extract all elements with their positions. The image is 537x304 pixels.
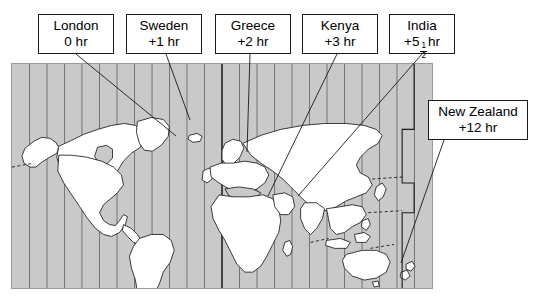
- callout-sweden-place: Sweden: [127, 18, 201, 34]
- callout-sweden[interactable]: Sweden +1 hr: [126, 14, 202, 54]
- callout-india-offset: +512hr: [390, 34, 454, 60]
- callout-india-place: India: [390, 18, 454, 34]
- callout-sweden-offset: +1 hr: [127, 34, 201, 50]
- callout-london[interactable]: London 0 hr: [38, 14, 114, 54]
- fraction-denominator: 2: [420, 52, 427, 60]
- callout-india-half-fraction: 12: [420, 42, 427, 59]
- callout-india-offset-suffix: hr: [428, 34, 440, 49]
- callout-india-offset-prefix: +5: [404, 34, 419, 49]
- callout-london-offset: 0 hr: [39, 34, 113, 50]
- callout-greece-place: Greece: [216, 18, 290, 34]
- callout-india[interactable]: India +512hr: [389, 14, 455, 54]
- callout-new-zealand[interactable]: New Zealand +12 hr: [428, 100, 528, 140]
- landmass-iceland: [188, 133, 202, 142]
- callout-greece[interactable]: Greece +2 hr: [215, 14, 291, 54]
- callout-greece-offset: +2 hr: [216, 34, 290, 50]
- world-map: [11, 63, 433, 289]
- callout-london-place: London: [39, 18, 113, 34]
- world-map-graphic: [12, 64, 432, 288]
- callout-new-zealand-place: New Zealand: [429, 104, 527, 120]
- callout-kenya-place: Kenya: [303, 18, 377, 34]
- callout-kenya[interactable]: Kenya +3 hr: [302, 14, 378, 54]
- callout-new-zealand-offset: +12 hr: [429, 120, 527, 136]
- time-zone-figure: London 0 hr Sweden +1 hr Greece +2 hr Ke…: [0, 0, 537, 304]
- callout-kenya-offset: +3 hr: [303, 34, 377, 50]
